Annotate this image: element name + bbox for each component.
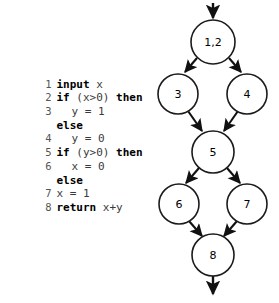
- graph-node-5[interactable]: 5: [192, 131, 234, 173]
- code-expression: y = 1: [72, 105, 105, 118]
- edge-node12-to-node3: [185, 58, 197, 72]
- code-listing: 1input x 2if (x>0) then 3y = 1 else 4y =…: [12, 64, 137, 201]
- graph-node-4[interactable]: 4: [227, 74, 267, 114]
- node-label: 8: [210, 249, 217, 262]
- code-line-text: x = 1: [57, 187, 90, 201]
- line-number: 4: [39, 132, 52, 146]
- node-label: 5: [210, 146, 217, 159]
- control-flow-graph: 1,2 3 4 5 6 7 8: [140, 0, 279, 303]
- line-number: 7: [39, 187, 52, 201]
- code-keyword: if: [57, 91, 70, 104]
- node-label: 3: [175, 88, 182, 101]
- edge-node5-to-node6: [186, 168, 199, 183]
- edge-node7-to-node8: [224, 221, 237, 236]
- code-expression: x = 0: [72, 160, 105, 173]
- code-line-text: x = 0: [72, 160, 105, 174]
- code-line-text: else: [57, 119, 84, 133]
- edge-node5-to-node7: [227, 168, 240, 183]
- code-line: 1input x: [12, 64, 137, 78]
- line-number: 6: [39, 160, 52, 174]
- code-keyword-then: then: [116, 146, 143, 159]
- code-line-text: if (y>0) then: [57, 146, 143, 160]
- code-keyword-else: else: [57, 119, 84, 132]
- code-line-text: return x+y: [57, 201, 123, 215]
- code-expression: x: [90, 78, 103, 91]
- graph-node-12[interactable]: 1,2: [191, 20, 235, 64]
- code-line-text: else: [57, 174, 84, 188]
- code-line-text: input x: [57, 78, 103, 92]
- node-label: 6: [176, 198, 183, 211]
- code-expression: x = 1: [57, 187, 90, 200]
- code-line-text: if (x>0) then: [57, 91, 143, 105]
- node-label: 4: [244, 88, 251, 101]
- code-line-text: y = 0: [72, 132, 105, 146]
- node-label: 1,2: [204, 36, 222, 49]
- graph-node-8[interactable]: 8: [192, 234, 234, 276]
- edge-node6-to-node8: [189, 221, 202, 236]
- line-number: 2: [39, 91, 52, 105]
- code-keyword: input: [57, 78, 90, 91]
- graph-node-7[interactable]: 7: [227, 184, 267, 224]
- edge-node3-to-node5: [188, 111, 202, 131]
- code-keyword: if: [57, 146, 70, 159]
- code-keyword-then: then: [116, 91, 143, 104]
- code-expression: x+y: [96, 201, 123, 214]
- code-expression: y = 0: [72, 132, 105, 145]
- code-line-text: y = 1: [72, 105, 105, 119]
- edge-node4-to-node5: [224, 111, 238, 131]
- graph-node-3[interactable]: 3: [158, 74, 198, 114]
- code-keyword-else: else: [57, 174, 84, 187]
- code-keyword: return: [57, 201, 97, 214]
- line-number: 8: [39, 201, 52, 215]
- edge-node12-to-node4: [229, 58, 241, 72]
- code-expression: (y>0): [70, 146, 116, 159]
- code-expression: (x>0): [70, 91, 116, 104]
- line-number: 3: [39, 105, 52, 119]
- line-number: 5: [39, 146, 52, 160]
- line-number: 1: [39, 78, 52, 92]
- graph-node-6[interactable]: 6: [159, 184, 199, 224]
- node-label: 7: [244, 198, 251, 211]
